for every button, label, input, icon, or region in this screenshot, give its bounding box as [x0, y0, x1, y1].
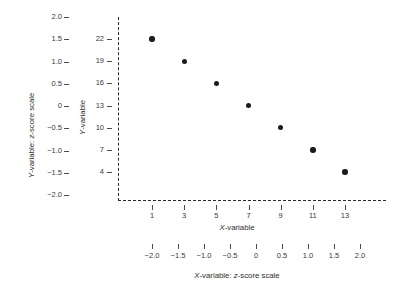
y-zscore-tick-label: −2.0 [34, 191, 62, 199]
data-point [310, 147, 315, 152]
y-zscore-tick-label: −1.0 [34, 147, 62, 155]
x-zscore-tick-mark [230, 244, 231, 249]
x-raw-tick-mark [152, 205, 153, 210]
y-raw-tick-label: 10 [88, 124, 104, 132]
data-point [246, 103, 251, 108]
y-zscore-tick-mark [64, 173, 69, 174]
y-zscore-tick-label: −0.5 [34, 124, 62, 132]
x-zscore-tick-mark [308, 244, 309, 249]
x-zscore-tick-mark [152, 244, 153, 249]
y-zscore-tick-mark [64, 195, 69, 196]
x-zscore-tick-mark [334, 244, 335, 249]
x-raw-tick-mark [313, 205, 314, 210]
y-raw-tick-mark [107, 172, 112, 173]
y-raw-tick-mark [107, 150, 112, 151]
y-raw-tick-mark [107, 128, 112, 129]
x-raw-tick-mark [216, 205, 217, 210]
y-raw-tick-mark [107, 39, 112, 40]
x-raw-tick-mark [249, 205, 250, 210]
plot-area: 2.01.51.00.50−0.5−1.0−1.5−2.022191613107… [0, 0, 403, 292]
y-raw-tick-mark [107, 61, 112, 62]
data-point [214, 81, 219, 86]
y-zscore-tick-mark [64, 106, 69, 107]
y-raw-tick-label: 7 [88, 146, 104, 154]
y-zscore-tick-label: 1.5 [34, 35, 62, 43]
x-raw-tick-label: 11 [301, 212, 325, 220]
y-zscore-tick-label: 0.5 [34, 80, 62, 88]
x-raw-tick-label: 5 [204, 212, 228, 220]
y-zscore-tick-label: −1.5 [34, 169, 62, 177]
y-raw-tick-label: 4 [88, 168, 104, 176]
x-raw-tick-label: 9 [269, 212, 293, 220]
x-raw-tick-label: 7 [237, 212, 261, 220]
scatter-plot-figure: Y-variable: z-score scale Y-variable X-v… [0, 0, 403, 292]
data-point [149, 36, 154, 41]
y-zscore-tick-mark [64, 39, 69, 40]
y-zscore-tick-label: 0 [34, 102, 62, 110]
y-zscore-tick-mark [64, 17, 69, 18]
data-point [342, 169, 347, 174]
x-raw-tick-mark [184, 205, 185, 210]
y-zscore-tick-mark [64, 151, 69, 152]
x-zscore-tick-mark [360, 244, 361, 249]
x-raw-tick-label: 3 [172, 212, 196, 220]
x-zscore-tick-mark [204, 244, 205, 249]
x-raw-tick-mark [281, 205, 282, 210]
y-raw-tick-mark [107, 106, 112, 107]
x-zscore-tick-mark [282, 244, 283, 249]
y-zscore-tick-label: 2.0 [34, 13, 62, 21]
data-point [182, 59, 187, 64]
y-zscore-tick-mark [64, 84, 69, 85]
y-zscore-tick-label: 1.0 [34, 58, 62, 66]
x-zscore-tick-label: 2.0 [344, 252, 376, 260]
y-raw-tick-mark [107, 83, 112, 84]
y-raw-tick-label: 19 [88, 57, 104, 65]
x-zscore-tick-mark [256, 244, 257, 249]
x-raw-tick-label: 1 [140, 212, 164, 220]
y-raw-tick-label: 16 [88, 79, 104, 87]
x-zscore-tick-mark [178, 244, 179, 249]
data-point [278, 125, 283, 130]
x-raw-tick-mark [345, 205, 346, 210]
y-raw-tick-label: 13 [88, 102, 104, 110]
y-zscore-tick-mark [64, 128, 69, 129]
x-raw-tick-label: 13 [333, 212, 357, 220]
y-zscore-tick-mark [64, 62, 69, 63]
y-raw-tick-label: 22 [88, 35, 104, 43]
